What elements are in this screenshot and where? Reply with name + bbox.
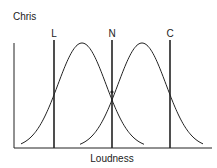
signal-detection-diagram: Chris L N C Loudness: [0, 0, 217, 168]
criterion-label-c: C: [166, 28, 173, 39]
diagram-canvas: Chris L N C Loudness: [0, 0, 217, 168]
curve-intersection-point: [110, 90, 113, 93]
diagram-title: Chris: [13, 11, 36, 22]
criterion-label-l: L: [51, 28, 57, 39]
left-distribution-curve: [21, 43, 144, 144]
right-distribution-curve: [80, 43, 203, 144]
x-axis-label: Loudness: [90, 153, 133, 164]
criterion-label-n: N: [108, 28, 115, 39]
